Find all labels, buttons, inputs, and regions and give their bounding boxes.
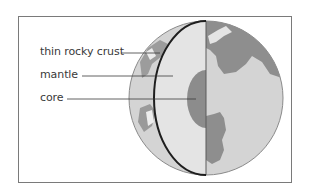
mantle-label: mantle xyxy=(40,69,78,81)
globe xyxy=(129,18,283,175)
crust-label: thin rocky crust xyxy=(40,46,124,58)
core-label: core xyxy=(40,92,63,104)
